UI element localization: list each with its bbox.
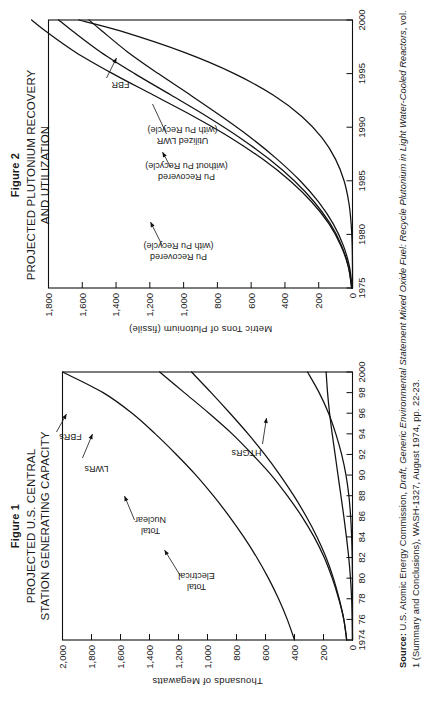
y-tick-label: 1,000	[178, 293, 189, 317]
figure-1-plot: 1974767880828486889092949698200002004006…	[0, 350, 390, 702]
annotation-arrowhead	[150, 222, 154, 227]
source-italic-title: Draft, Generic Environmental Statement M…	[397, 30, 407, 489]
x-tick-label: 90	[355, 470, 366, 481]
curve-annotation: TotalElectrical	[164, 550, 214, 592]
x-tick-label: 76	[355, 614, 366, 625]
y-tick-label: 800	[230, 645, 241, 661]
annotation-label-line2: Nuclear	[134, 515, 165, 525]
series-curve	[159, 372, 346, 640]
annotation-label-line2: Electrical	[178, 571, 215, 581]
y-tick-label: 1,600	[114, 645, 125, 669]
y-tick-label: 1,400	[143, 645, 154, 669]
x-tick-label: 2000	[355, 361, 366, 382]
curve-annotation: Pu Recovered(with Pu Recycle)	[143, 222, 213, 262]
x-tick-label: 1985	[355, 170, 366, 191]
x-tick-label: 80	[355, 573, 366, 584]
x-tick-label: 1990	[355, 117, 366, 138]
figure-2-svg: 19751980198519901995200002004006008001,0…	[0, 0, 390, 350]
annotation-label-line2: (without Pu Recycle)	[145, 161, 228, 171]
annotation-label: FBR	[110, 80, 129, 90]
y-tick-label: 200	[317, 645, 328, 661]
x-tick-label: 94	[355, 429, 366, 440]
annotation-label: HTGRs	[231, 448, 261, 458]
annotation-label: Pu Recovered	[157, 172, 214, 182]
y-tick-label: 0	[346, 645, 357, 650]
x-tick-label: 1995	[355, 63, 366, 84]
y-axis-title: Metric Tons of Plutonium (fissile)	[128, 324, 271, 335]
y-tick-label: 800	[211, 293, 222, 309]
x-tick-label: 92	[355, 449, 366, 460]
x-tick-label: 86	[355, 511, 366, 522]
y-tick-label: 200	[313, 293, 324, 309]
figure-1: Figure 1 PROJECTED U.S. CENTRAL STATION …	[0, 350, 390, 702]
figure-2: Figure 2 PROJECTED PLUTONIUM RECOVERY AN…	[0, 0, 390, 350]
x-tick-label: 78	[355, 593, 366, 604]
y-tick-label: 0	[346, 293, 357, 298]
y-axis-title: Thousands of Megawatts	[152, 676, 263, 687]
y-tick-label: 1,400	[110, 293, 121, 317]
curve-annotation: FBRs	[56, 414, 81, 442]
annotation-label: Utilized LWR	[156, 136, 208, 146]
x-tick-label: 1980	[355, 224, 366, 245]
figure-1-svg: 1974767880828486889092949698200002004006…	[0, 350, 390, 702]
annotation-label: Pu Recovered	[149, 252, 206, 262]
y-tick-label: 2,000	[56, 645, 67, 669]
scanned-page: Figure 1 PROJECTED U.S. CENTRAL STATION …	[0, 0, 433, 702]
annotation-label: LWRs	[84, 464, 108, 474]
y-tick-label: 600	[245, 293, 256, 309]
source-text-part1: U.S. Atomic Energy Commission,	[397, 489, 407, 633]
y-tick-label: 1,800	[85, 645, 96, 669]
annotation-label-line2: (with Pu Recycle)	[143, 241, 213, 251]
series-curve	[78, 20, 352, 288]
annotation-arrowhead	[124, 496, 128, 501]
series-curve	[89, 20, 352, 288]
x-tick-label: 2000	[355, 9, 366, 30]
y-tick-label: 1,600	[76, 293, 87, 317]
annotation-label: Total	[140, 526, 159, 536]
x-tick-label: 84	[355, 532, 366, 543]
annotation-label: Total	[186, 582, 205, 592]
annotation-arrowhead	[263, 418, 267, 423]
annotation-arrowhead	[88, 434, 92, 439]
series-curve	[62, 372, 294, 640]
figure-2-plot: 19751980198519901995200002004006008001,0…	[0, 0, 390, 350]
curve-annotation: Pu Recovered(without Pu Recycle)	[145, 152, 228, 182]
annotation-label-line2: (with Pu Recycle)	[147, 125, 217, 135]
curve-annotation: LWRs	[82, 434, 108, 474]
x-tick-label: 98	[355, 387, 366, 398]
x-tick-label: 88	[355, 490, 366, 501]
curve-annotation: TotalNuclear	[124, 496, 166, 536]
y-tick-label: 400	[279, 293, 290, 309]
series-curve	[191, 372, 346, 640]
y-tick-label: 1,200	[144, 293, 155, 317]
source-label: Source:	[397, 633, 407, 668]
y-tick-label: 1,000	[201, 645, 212, 669]
y-tick-label: 1,200	[172, 645, 183, 669]
y-tick-label: 400	[288, 645, 299, 661]
annotation-label: FBRs	[58, 432, 81, 442]
x-tick-label: 96	[355, 408, 366, 419]
y-tick-label: 600	[259, 645, 270, 661]
annotation-arrowhead	[162, 152, 166, 157]
source-note: Source: U.S. Atomic Energy Commission, D…	[396, 8, 421, 668]
x-tick-label: 82	[355, 552, 366, 563]
y-tick-label: 1,800	[42, 293, 53, 317]
